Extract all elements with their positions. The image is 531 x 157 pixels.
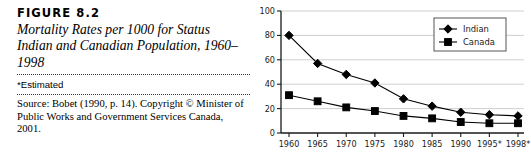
y-axis-ticks-group: 020406080100 (260, 6, 281, 138)
data-point-canada (429, 115, 436, 122)
data-point-canada (371, 108, 378, 115)
y-tick-label: 20 (265, 104, 275, 114)
divider-bottom (17, 94, 250, 95)
data-point-indian (342, 70, 350, 78)
data-point-canada (286, 92, 293, 99)
figure-label: FIGURE 8.2 (17, 6, 252, 20)
y-tick-label: 40 (265, 79, 275, 89)
x-tick-label: 1980 (393, 139, 414, 149)
data-point-indian (399, 95, 407, 103)
chart-svg: 020406080100 196019651970197519801985199… (258, 0, 531, 157)
data-point-canada (314, 98, 321, 105)
y-tick-label: 60 (265, 55, 275, 65)
legend-label-indian: Indian (463, 24, 489, 34)
data-point-indian (371, 79, 379, 87)
data-point-indian (514, 112, 522, 120)
data-point-canada (457, 119, 464, 126)
data-point-canada (343, 104, 350, 111)
data-point-indian (485, 111, 493, 119)
figure-title: Mortality Rates per 1000 for Status Indi… (17, 22, 245, 71)
data-point-indian (428, 102, 436, 110)
legend-label-canada: Canada (463, 37, 495, 47)
figure-panel: FIGURE 8.2 Mortality Rates per 1000 for … (0, 0, 531, 157)
y-tick-label: 0 (270, 128, 275, 138)
y-tick-label: 80 (265, 30, 275, 40)
estimated-footnote: *Estimated (17, 78, 252, 91)
data-point-canada (486, 120, 493, 127)
y-tick-label: 100 (260, 6, 275, 16)
x-tick-label: 1995* (477, 139, 502, 149)
x-tick-label: 1998* (506, 139, 531, 149)
divider-top (17, 74, 250, 75)
mortality-rates-line-chart: 020406080100 196019651970197519801985199… (258, 0, 531, 157)
chart-legend: IndianCanada (434, 18, 506, 51)
x-tick-label: 1985 (422, 139, 443, 149)
x-axis-ticks-group: 19601965197019751980198519901995*1998* (279, 133, 531, 149)
x-tick-label: 1960 (279, 139, 300, 149)
data-point-indian (457, 108, 465, 116)
x-tick-label: 1970 (336, 139, 357, 149)
source-note: Source: Bobet (1990, p. 14). Copyright ©… (17, 98, 249, 136)
x-tick-label: 1965 (307, 139, 328, 149)
x-tick-label: 1975 (365, 139, 386, 149)
data-point-canada (515, 120, 522, 127)
legend-marker-canada (445, 39, 452, 46)
caption-block: FIGURE 8.2 Mortality Rates per 1000 for … (17, 6, 252, 136)
data-point-canada (400, 113, 407, 120)
x-tick-label: 1990 (450, 139, 471, 149)
